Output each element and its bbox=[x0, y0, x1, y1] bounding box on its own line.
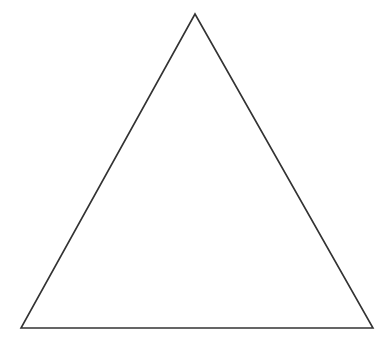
triangle-diagram bbox=[0, 0, 384, 346]
triangle-shape bbox=[21, 14, 373, 328]
